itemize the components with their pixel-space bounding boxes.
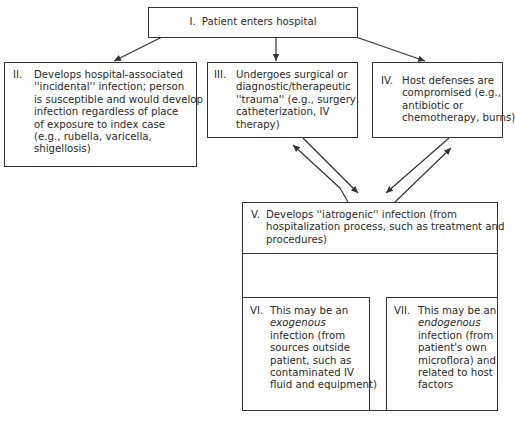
node-ii-line: shigellosis)	[34, 143, 203, 155]
node-iii-line: ''trauma'' (e.g., surgery,	[236, 94, 359, 106]
node-ii-line: ''incidental'' infection; person	[34, 81, 203, 93]
node-iii-line: therapy)	[236, 119, 359, 131]
node-iii-surgical-trauma: III. Undergoes surgical or diagnostic/th…	[207, 62, 358, 138]
arrow-v-to-iv	[395, 148, 451, 202]
node-vii-line: related to host	[418, 367, 497, 379]
node-v-line: Develops ''iatrogenic'' infection (from	[266, 209, 505, 221]
node-i-text: Patient enters hospital	[202, 16, 317, 28]
node-vi-line: contaminated IV	[270, 367, 377, 379]
node-iv-line: antibiotic or	[402, 100, 515, 112]
node-vi-line: infection (from	[270, 330, 377, 342]
node-ii-line: is susceptible and would develop	[34, 94, 203, 106]
node-vii-line: infection (from	[418, 330, 497, 342]
node-vi-line-italic: exogenous	[270, 317, 377, 329]
node-ii-line: Develops hospital-associated	[34, 69, 203, 81]
node-i-number: I.	[189, 16, 195, 28]
node-i-patient-enters-hospital: I. Patient enters hospital	[148, 7, 358, 38]
node-iv-line: chemotherapy, burns)	[402, 112, 515, 124]
node-vii-line: factors	[418, 379, 497, 391]
arrow-iii-to-v	[303, 138, 358, 193]
node-vii-line: This may be an	[418, 305, 497, 317]
node-ii-number: II.	[13, 69, 34, 156]
node-iii-line: catheterization, IV	[236, 106, 359, 118]
node-vii-line: microflora) and	[418, 355, 497, 367]
node-iv-number: IV.	[381, 75, 402, 125]
node-ii-line: infection regardless of place	[34, 106, 203, 118]
node-ii-line: of exposure to index case	[34, 119, 203, 131]
node-vii-number: VII.	[394, 305, 418, 392]
node-iv-line: Host defenses are	[402, 75, 515, 87]
node-vi-line: This may be an	[270, 305, 377, 317]
node-v-line: hospitalization process, such as treatme…	[266, 221, 505, 233]
node-v-number: V.	[251, 209, 266, 246]
node-v-line: procedures)	[266, 234, 505, 246]
node-ii-line: (e.g., rubella, varicella,	[34, 131, 203, 143]
node-iv-host-defenses-compromised: IV. Host defenses are compromised (e.g.,…	[372, 62, 503, 138]
arrow-i-to-ii	[114, 37, 162, 61]
node-vii-endogenous-infection: VII. This may be an endogenous infection…	[386, 297, 498, 411]
arrow-iv-to-v	[386, 138, 449, 193]
node-vi-line: sources outside	[270, 342, 377, 354]
node-vi-line: fluid and equipment)	[270, 379, 377, 391]
arrow-i-to-iv	[356, 37, 425, 61]
node-iii-line: Undergoes surgical or	[236, 69, 359, 81]
node-vi-exogenous-infection: VI. This may be an exogenous infection (…	[242, 297, 370, 411]
node-vi-number: VI.	[250, 305, 270, 392]
node-v-iatrogenic-infection: V. Develops ''iatrogenic'' infection (fr…	[242, 202, 498, 254]
node-iii-line: diagnostic/therapeutic	[236, 81, 359, 93]
node-vii-line-italic: endogenous	[418, 317, 497, 329]
node-ii-incidental-infection: II. Develops hospital-associated ''incid…	[4, 62, 197, 167]
node-vii-line: patient's own	[418, 342, 497, 354]
node-iv-line: compromised (e.g.,	[402, 87, 515, 99]
node-iii-number: III.	[214, 69, 236, 131]
node-vi-line: patient, such as	[270, 355, 377, 367]
